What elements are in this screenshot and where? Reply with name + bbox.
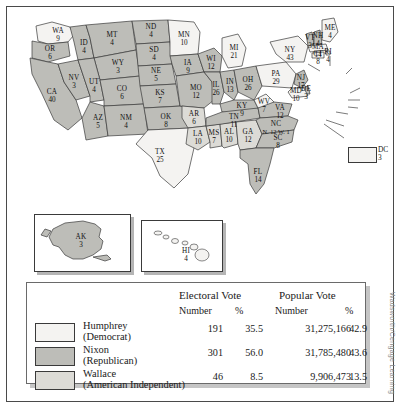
state-votes-mo: 12 (192, 92, 200, 100)
state-votes-me: 4 (328, 32, 332, 40)
state-votes-wv: 7 (262, 106, 266, 114)
hi-votes: 4 (184, 255, 188, 263)
legend-swatch-nixon (35, 347, 75, 366)
state-votes-va: 12 (276, 112, 284, 120)
cell-popular-pct: 13.5 (335, 371, 367, 382)
state-votes-mt: 4 (110, 39, 114, 47)
state-votes-az: 5 (96, 122, 100, 130)
hi-code: HI (182, 247, 190, 255)
state-votes-sc: 8 (276, 142, 280, 150)
state-votes-co: 6 (120, 93, 124, 101)
state-votes-nd: 4 (149, 31, 153, 39)
cell-electoral-number: 191 (179, 323, 223, 334)
subheader-popular-number: Number (275, 305, 308, 316)
dc-swatch (348, 147, 377, 163)
state-votes-wy: 3 (116, 67, 120, 75)
dc-label: DC 3 (378, 146, 388, 163)
state-votes-ar: 6 (192, 118, 196, 126)
state-votes-id: 4 (82, 47, 86, 55)
state-votes-la: 10 (194, 138, 202, 146)
state-votes-ok: 8 (164, 121, 168, 129)
state-votes-tn: 11 (231, 121, 238, 129)
legend-candidate-name: Wallace(American Independent) (83, 368, 185, 390)
electoral-map-figure: WA9OR6CA40NV3ID4MT4WY3UT4CO6AZ5NM4ND4SD4… (0, 0, 414, 418)
state-votes-wi: 12 (207, 63, 215, 71)
state-votes-al: 10 (225, 136, 233, 144)
legend-swatch-wallace (35, 371, 75, 390)
cell-electoral-pct: 56.0 (231, 347, 263, 358)
candidate-name-line2: (American Independent) (83, 379, 185, 390)
state-votes-oh: 26 (244, 84, 252, 92)
attribution-text: Wadsworth/Cengage Learning (389, 292, 396, 402)
state-votes-nm: 4 (124, 122, 128, 130)
state-votes-md: 10 (292, 95, 300, 103)
state-votes-ny: 43 (286, 54, 294, 62)
state-votes-ca: 40 (48, 96, 56, 104)
state-votes-il: 26 (212, 89, 220, 97)
ak-code: AK (76, 233, 87, 241)
cell-popular-pct: 42.9 (335, 323, 367, 334)
state-votes-ct: 8 (316, 58, 320, 66)
state-tx (136, 128, 194, 188)
cell-popular-pct: 43.6 (335, 347, 367, 358)
state-votes-fl: 14 (254, 176, 262, 184)
subheader-electoral-number: Number (179, 305, 212, 316)
cell-electoral-pct: 35.5 (231, 323, 263, 334)
state-votes-ks: 7 (158, 97, 162, 105)
header-popular-vote: Popular Vote (279, 289, 336, 301)
state-votes-or: 6 (48, 53, 52, 61)
candidate-name-line2: (Democrat) (83, 331, 131, 342)
candidate-name-line1: Nixon (83, 344, 109, 355)
ak-votes: 3 (79, 241, 83, 249)
state-votes-tx: 25 (156, 156, 164, 164)
hawaii-inset: HI 4 (141, 220, 223, 272)
legend-row: Wallace(American Independent)468.59,906,… (35, 369, 359, 395)
state-votes-ga: 12 (244, 136, 252, 144)
cell-electoral-pct: 8.5 (231, 371, 263, 382)
state-votes-mi: 21 (230, 52, 238, 60)
state-votes-sd: 4 (152, 54, 156, 62)
candidate-name-line2: (Republican) (83, 355, 137, 366)
us-electoral-map: WA9OR6CA40NV3ID4MT4WY3UT4CO6AZ5NM4ND4SD4… (8, 8, 380, 270)
state-votes-ut: 4 (92, 86, 96, 94)
results-legend-table: Electoral Vote Popular Vote Number % Num… (26, 282, 366, 384)
alaska-inset: AK 3 (34, 214, 131, 272)
dc-votes: 3 (378, 153, 382, 162)
state-votes-in: 13 (226, 86, 234, 94)
legend-swatch-humphrey (35, 323, 75, 342)
state-votes-ky: 9 (240, 110, 244, 118)
cell-electoral-number: 46 (179, 371, 223, 382)
header-electoral-vote: Electoral Vote (179, 289, 241, 301)
legend-candidate-name: Nixon(Republican) (83, 344, 137, 366)
state-votes-wa: 9 (56, 35, 60, 43)
state-votes-ms: 7 (212, 137, 216, 145)
state-votes-nv: 3 (72, 82, 76, 90)
state-votes-mn: 10 (180, 39, 188, 47)
subheader-electoral-pct: % (235, 305, 243, 316)
state-votes-ri: 4 (326, 56, 330, 64)
cell-electoral-number: 301 (179, 347, 223, 358)
candidate-name-line1: Humphrey (83, 320, 127, 331)
state-votes-ne: 5 (154, 75, 158, 83)
state-votes-de: 3 (304, 93, 308, 101)
subheader-popular-pct: % (345, 305, 353, 316)
state-votes-pa: 29 (272, 78, 280, 86)
state-votes-ia: 9 (186, 67, 190, 75)
candidate-name-line1: Wallace (83, 368, 116, 379)
legend-candidate-name: Humphrey(Democrat) (83, 320, 131, 342)
